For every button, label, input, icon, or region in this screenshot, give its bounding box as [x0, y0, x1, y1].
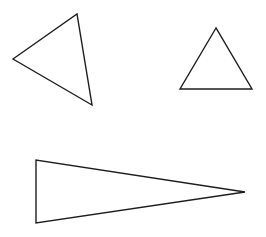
- triangle-2: [180, 28, 252, 89]
- triangle-1: [13, 14, 92, 105]
- diagram-canvas: [0, 0, 266, 237]
- triangle-3: [36, 160, 245, 223]
